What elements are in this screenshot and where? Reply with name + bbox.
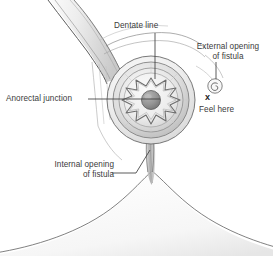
label-anorectal-junction: Anorectal junction bbox=[6, 94, 72, 104]
leader-internal-opening bbox=[112, 150, 150, 173]
rectum-tube bbox=[48, 0, 124, 84]
label-external-opening-of-fistula: External opening of fistula bbox=[195, 42, 261, 61]
anatomy-illustration bbox=[0, 0, 273, 256]
label-internal-opening-line2: of fistula bbox=[83, 170, 114, 179]
label-external-opening-line2: of fistula bbox=[213, 52, 244, 61]
label-external-opening-line1: External opening bbox=[197, 42, 259, 51]
label-internal-opening-of-fistula: Internal opening of fistula bbox=[44, 160, 114, 179]
buttocks-natal-cleft bbox=[0, 138, 273, 256]
label-dentate-line: Dentate line bbox=[114, 21, 158, 31]
figure-canvas: Dentate line Anorectal junction External… bbox=[0, 0, 273, 256]
feel-here-x-marker: x bbox=[205, 92, 210, 102]
label-feel-here: Feel here bbox=[199, 105, 234, 115]
label-internal-opening-line1: Internal opening bbox=[54, 160, 114, 169]
anal-canal-opening bbox=[142, 91, 161, 110]
